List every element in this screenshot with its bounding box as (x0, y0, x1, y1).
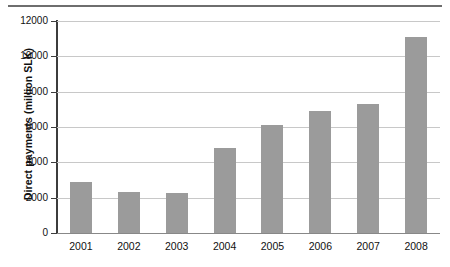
y-tick-label-10000: 10000 (2, 51, 48, 61)
x-tick-label-2005: 2005 (249, 240, 297, 252)
x-tick-label-2008: 2008 (392, 240, 440, 252)
gridline-12000 (57, 21, 440, 22)
y-tick-mark-8000 (51, 92, 57, 93)
y-tick-mark-0 (51, 233, 57, 234)
bar-2001 (70, 182, 92, 233)
gridline-0 (57, 233, 440, 234)
y-tick-mark-2000 (51, 198, 57, 199)
bar-2002 (118, 192, 140, 233)
y-tick-mark-10000 (51, 56, 57, 57)
bar-2007 (357, 104, 379, 233)
y-tick-label-6000: 6000 (2, 122, 48, 132)
bar-2006 (309, 111, 331, 233)
x-axis-tick-labels: 20012002200320042005200620072008 (57, 240, 440, 256)
y-tick-mark-12000 (51, 21, 57, 22)
bar-2005 (261, 125, 283, 233)
top-divider-rule (8, 5, 442, 7)
bar-2004 (214, 148, 236, 233)
y-axis-tick-labels: 020004000600080001000012000 (0, 0, 48, 267)
y-tick-label-0: 0 (2, 228, 48, 238)
gridline-6000 (57, 127, 440, 128)
y-tick-label-12000: 12000 (2, 16, 48, 26)
bar-chart-figure: Direct payments (million SLK) 0200040006… (0, 0, 450, 267)
x-tick-label-2001: 2001 (57, 240, 105, 252)
x-tick-label-2006: 2006 (296, 240, 344, 252)
y-tick-label-2000: 2000 (2, 193, 48, 203)
gridline-2000 (57, 198, 440, 199)
y-tick-mark-4000 (51, 162, 57, 163)
x-tick-label-2004: 2004 (201, 240, 249, 252)
y-tick-mark-6000 (51, 127, 57, 128)
x-tick-label-2003: 2003 (153, 240, 201, 252)
x-tick-label-2002: 2002 (105, 240, 153, 252)
y-tick-label-4000: 4000 (2, 157, 48, 167)
gridline-4000 (57, 162, 440, 163)
plot-area (57, 21, 440, 233)
bar-2003 (166, 193, 188, 233)
gridline-10000 (57, 56, 440, 57)
gridline-8000 (57, 92, 440, 93)
bar-2008 (405, 37, 427, 233)
x-tick-label-2007: 2007 (344, 240, 392, 252)
y-tick-label-8000: 8000 (2, 87, 48, 97)
